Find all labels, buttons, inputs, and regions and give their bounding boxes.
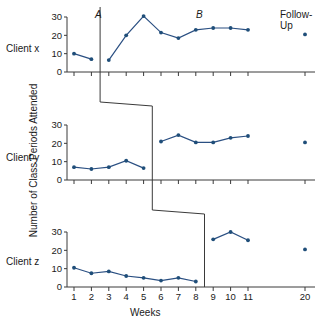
data-point	[124, 33, 128, 37]
x-tick-label: 11	[243, 291, 253, 302]
data-point	[246, 238, 250, 242]
series-line	[161, 135, 248, 142]
plot-area: 010203001020300102030123456789101120	[0, 0, 320, 324]
phase-step-connector	[100, 72, 152, 115]
y-tick-label: 0	[57, 281, 62, 292]
client-z-label: Client z	[6, 256, 39, 267]
phase-step-connector	[152, 180, 204, 222]
data-point	[107, 58, 111, 62]
data-point	[211, 26, 215, 30]
data-point	[142, 14, 146, 18]
x-tick-label: 6	[158, 291, 163, 302]
series-line	[74, 54, 91, 60]
data-point	[90, 57, 94, 61]
data-point	[229, 136, 233, 140]
followup-label-line1: Follow-	[280, 9, 312, 20]
data-point	[194, 141, 198, 145]
data-point	[72, 52, 76, 56]
x-tick-label: 20	[300, 291, 311, 302]
followup-label: Follow- Up	[280, 9, 312, 31]
followup-label-line2: Up	[280, 20, 312, 31]
data-point	[142, 276, 146, 280]
data-point	[72, 266, 76, 270]
data-point	[194, 280, 198, 284]
y-axis-title: Number of Class Periods Attended	[28, 76, 39, 246]
multiple-baseline-chart: Client x Client y Client z A B Follow- U…	[0, 0, 320, 324]
y-tick-label: 20	[51, 138, 62, 149]
data-point	[177, 133, 181, 137]
data-point	[229, 230, 233, 234]
y-tick-label: 30	[51, 119, 62, 130]
data-point	[303, 141, 307, 145]
y-tick-label: 30	[51, 11, 62, 22]
data-point	[159, 140, 163, 144]
data-point	[303, 33, 307, 37]
y-tick-label: 10	[51, 263, 62, 274]
x-tick-label: 8	[193, 291, 198, 302]
y-tick-label: 10	[51, 48, 62, 59]
data-point	[246, 28, 250, 32]
y-tick-label: 10	[51, 156, 62, 167]
data-point	[72, 165, 76, 169]
x-tick-label: 1	[71, 291, 76, 302]
data-point	[90, 271, 94, 275]
data-point	[194, 28, 198, 32]
data-point	[303, 248, 307, 252]
x-tick-label: 9	[211, 291, 216, 302]
data-point	[90, 167, 94, 171]
data-point	[124, 159, 128, 163]
data-point	[211, 237, 215, 241]
y-tick-label: 0	[57, 66, 62, 77]
x-tick-label: 5	[141, 291, 146, 302]
data-point	[177, 36, 181, 40]
x-tick-label: 10	[225, 291, 236, 302]
y-tick-label: 30	[51, 226, 62, 237]
data-point	[159, 279, 163, 283]
x-tick-label: 7	[176, 291, 181, 302]
x-tick-label: 3	[106, 291, 111, 302]
data-point	[107, 165, 111, 169]
y-tick-label: 20	[51, 245, 62, 256]
data-point	[124, 274, 128, 278]
data-point	[142, 166, 146, 170]
client-x-label: Client x	[6, 43, 39, 54]
y-tick-label: 0	[57, 174, 62, 185]
phase-b-label: B	[196, 9, 203, 20]
data-point	[159, 31, 163, 35]
data-point	[177, 276, 181, 280]
data-point	[246, 134, 250, 138]
phase-a-label: A	[95, 9, 102, 20]
data-point	[211, 141, 215, 145]
y-tick-label: 20	[51, 30, 62, 41]
data-point	[229, 26, 233, 30]
x-tick-label: 4	[124, 291, 129, 302]
x-axis-title: Weeks	[130, 307, 160, 318]
x-tick-label: 2	[89, 291, 94, 302]
data-point	[107, 270, 111, 274]
